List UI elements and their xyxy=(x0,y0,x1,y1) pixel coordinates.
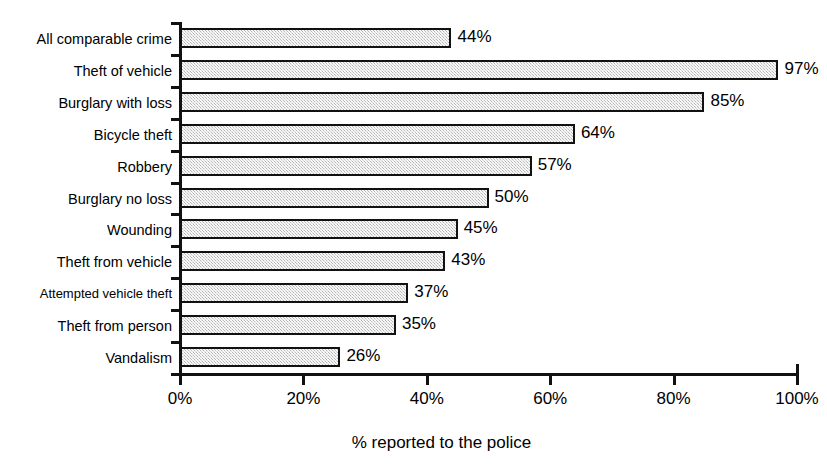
x-axis-tick-label: 80% xyxy=(657,388,691,410)
x-axis-tick xyxy=(549,375,552,385)
bar-value-label: 85% xyxy=(710,90,744,112)
y-axis-tick xyxy=(171,86,180,89)
category-label: Robbery xyxy=(0,157,172,177)
category-label: Burglary with loss xyxy=(0,93,172,113)
x-axis-tick xyxy=(179,375,182,385)
category-label: Wounding xyxy=(0,220,172,240)
x-axis-title-text: % reported to the police xyxy=(352,433,532,452)
bar xyxy=(180,92,704,112)
category-label: Theft from person xyxy=(0,316,172,336)
x-axis-tick xyxy=(673,375,676,385)
category-label: Burglary no loss xyxy=(0,189,172,209)
y-axis-tick xyxy=(171,213,180,216)
x-axis-end-cap xyxy=(796,364,799,376)
category-label: Bicycle theft xyxy=(0,125,172,145)
x-axis-tick-label: 40% xyxy=(410,388,444,410)
category-label: Vandalism xyxy=(0,348,172,368)
bar xyxy=(180,251,445,271)
bar-value-label: 37% xyxy=(414,281,448,303)
category-label: Theft from vehicle xyxy=(0,252,172,272)
bar-value-label: 43% xyxy=(451,249,485,271)
y-axis-tick xyxy=(171,54,180,57)
y-axis-tick xyxy=(171,150,180,153)
y-axis-tick xyxy=(171,277,180,280)
x-axis-tick-label: 20% xyxy=(286,388,320,410)
bar xyxy=(180,156,532,176)
x-axis-tick-label: 60% xyxy=(533,388,567,410)
y-axis-tick xyxy=(171,245,180,248)
y-axis-tick xyxy=(171,22,180,25)
y-axis-tick xyxy=(171,341,180,344)
x-axis-tick xyxy=(302,375,305,385)
bar-value-label: 35% xyxy=(402,313,436,335)
category-label: Theft of vehicle xyxy=(0,61,172,81)
bar-value-label: 44% xyxy=(457,26,491,48)
y-axis-tick xyxy=(171,118,180,121)
x-axis-title: % reported to the police xyxy=(0,432,827,454)
x-axis-tick-label: 100% xyxy=(775,388,818,410)
bar xyxy=(180,347,340,367)
x-axis-tick xyxy=(426,375,429,385)
bar-value-label: 97% xyxy=(784,58,818,80)
bar xyxy=(180,188,489,208)
bar-value-label: 50% xyxy=(495,186,529,208)
y-axis-tick xyxy=(171,182,180,185)
bar-chart: 44%97%85%64%57%50%45%43%37%35%26% All co… xyxy=(0,0,827,467)
bar xyxy=(180,124,575,144)
bar xyxy=(180,315,396,335)
x-axis-tick-label: 0% xyxy=(168,388,193,410)
bar-value-label: 64% xyxy=(581,122,615,144)
bar xyxy=(180,60,778,80)
bar xyxy=(180,283,408,303)
bar xyxy=(180,219,458,239)
y-axis-tick xyxy=(171,309,180,312)
x-axis-tick xyxy=(796,375,799,385)
category-label: Attempted vehicle theft xyxy=(0,284,172,304)
bar xyxy=(180,28,451,48)
category-label: All comparable crime xyxy=(0,29,172,49)
bar-value-label: 26% xyxy=(346,345,380,367)
bar-value-label: 57% xyxy=(538,154,572,176)
bar-value-label: 45% xyxy=(464,217,498,239)
